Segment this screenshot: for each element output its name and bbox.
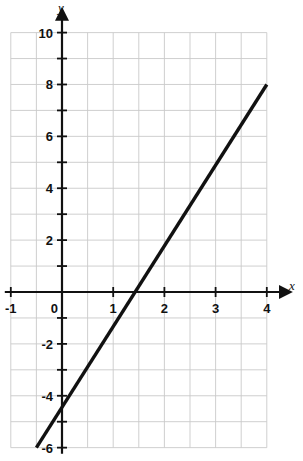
x-tick-label: 3 bbox=[212, 301, 219, 316]
y-tick-label: -2 bbox=[41, 337, 53, 352]
graph-canvas: -101234108642-2-4-6 xy bbox=[0, 0, 303, 461]
y-tick-label: -4 bbox=[41, 389, 53, 404]
x-tick-label: 0 bbox=[51, 301, 58, 316]
y-axis-name: y bbox=[56, 0, 64, 15]
x-tick-label: -1 bbox=[5, 301, 17, 316]
coordinate-graph: -101234108642-2-4-6 xy bbox=[0, 0, 303, 461]
x-axis-name: x bbox=[288, 278, 295, 293]
y-tick-label: 10 bbox=[39, 26, 53, 41]
y-tick-label: -6 bbox=[41, 441, 53, 456]
y-tick-label: 2 bbox=[46, 233, 53, 248]
axis-tick-labels: -101234108642-2-4-6 bbox=[5, 26, 271, 456]
y-tick-label: 8 bbox=[46, 77, 53, 92]
x-tick-label: 2 bbox=[161, 301, 168, 316]
axis-names: xy bbox=[56, 0, 295, 293]
x-tick-label: 1 bbox=[110, 301, 117, 316]
y-tick-label: 6 bbox=[46, 129, 53, 144]
y-tick-label: 4 bbox=[46, 181, 54, 196]
x-tick-label: 4 bbox=[263, 301, 271, 316]
